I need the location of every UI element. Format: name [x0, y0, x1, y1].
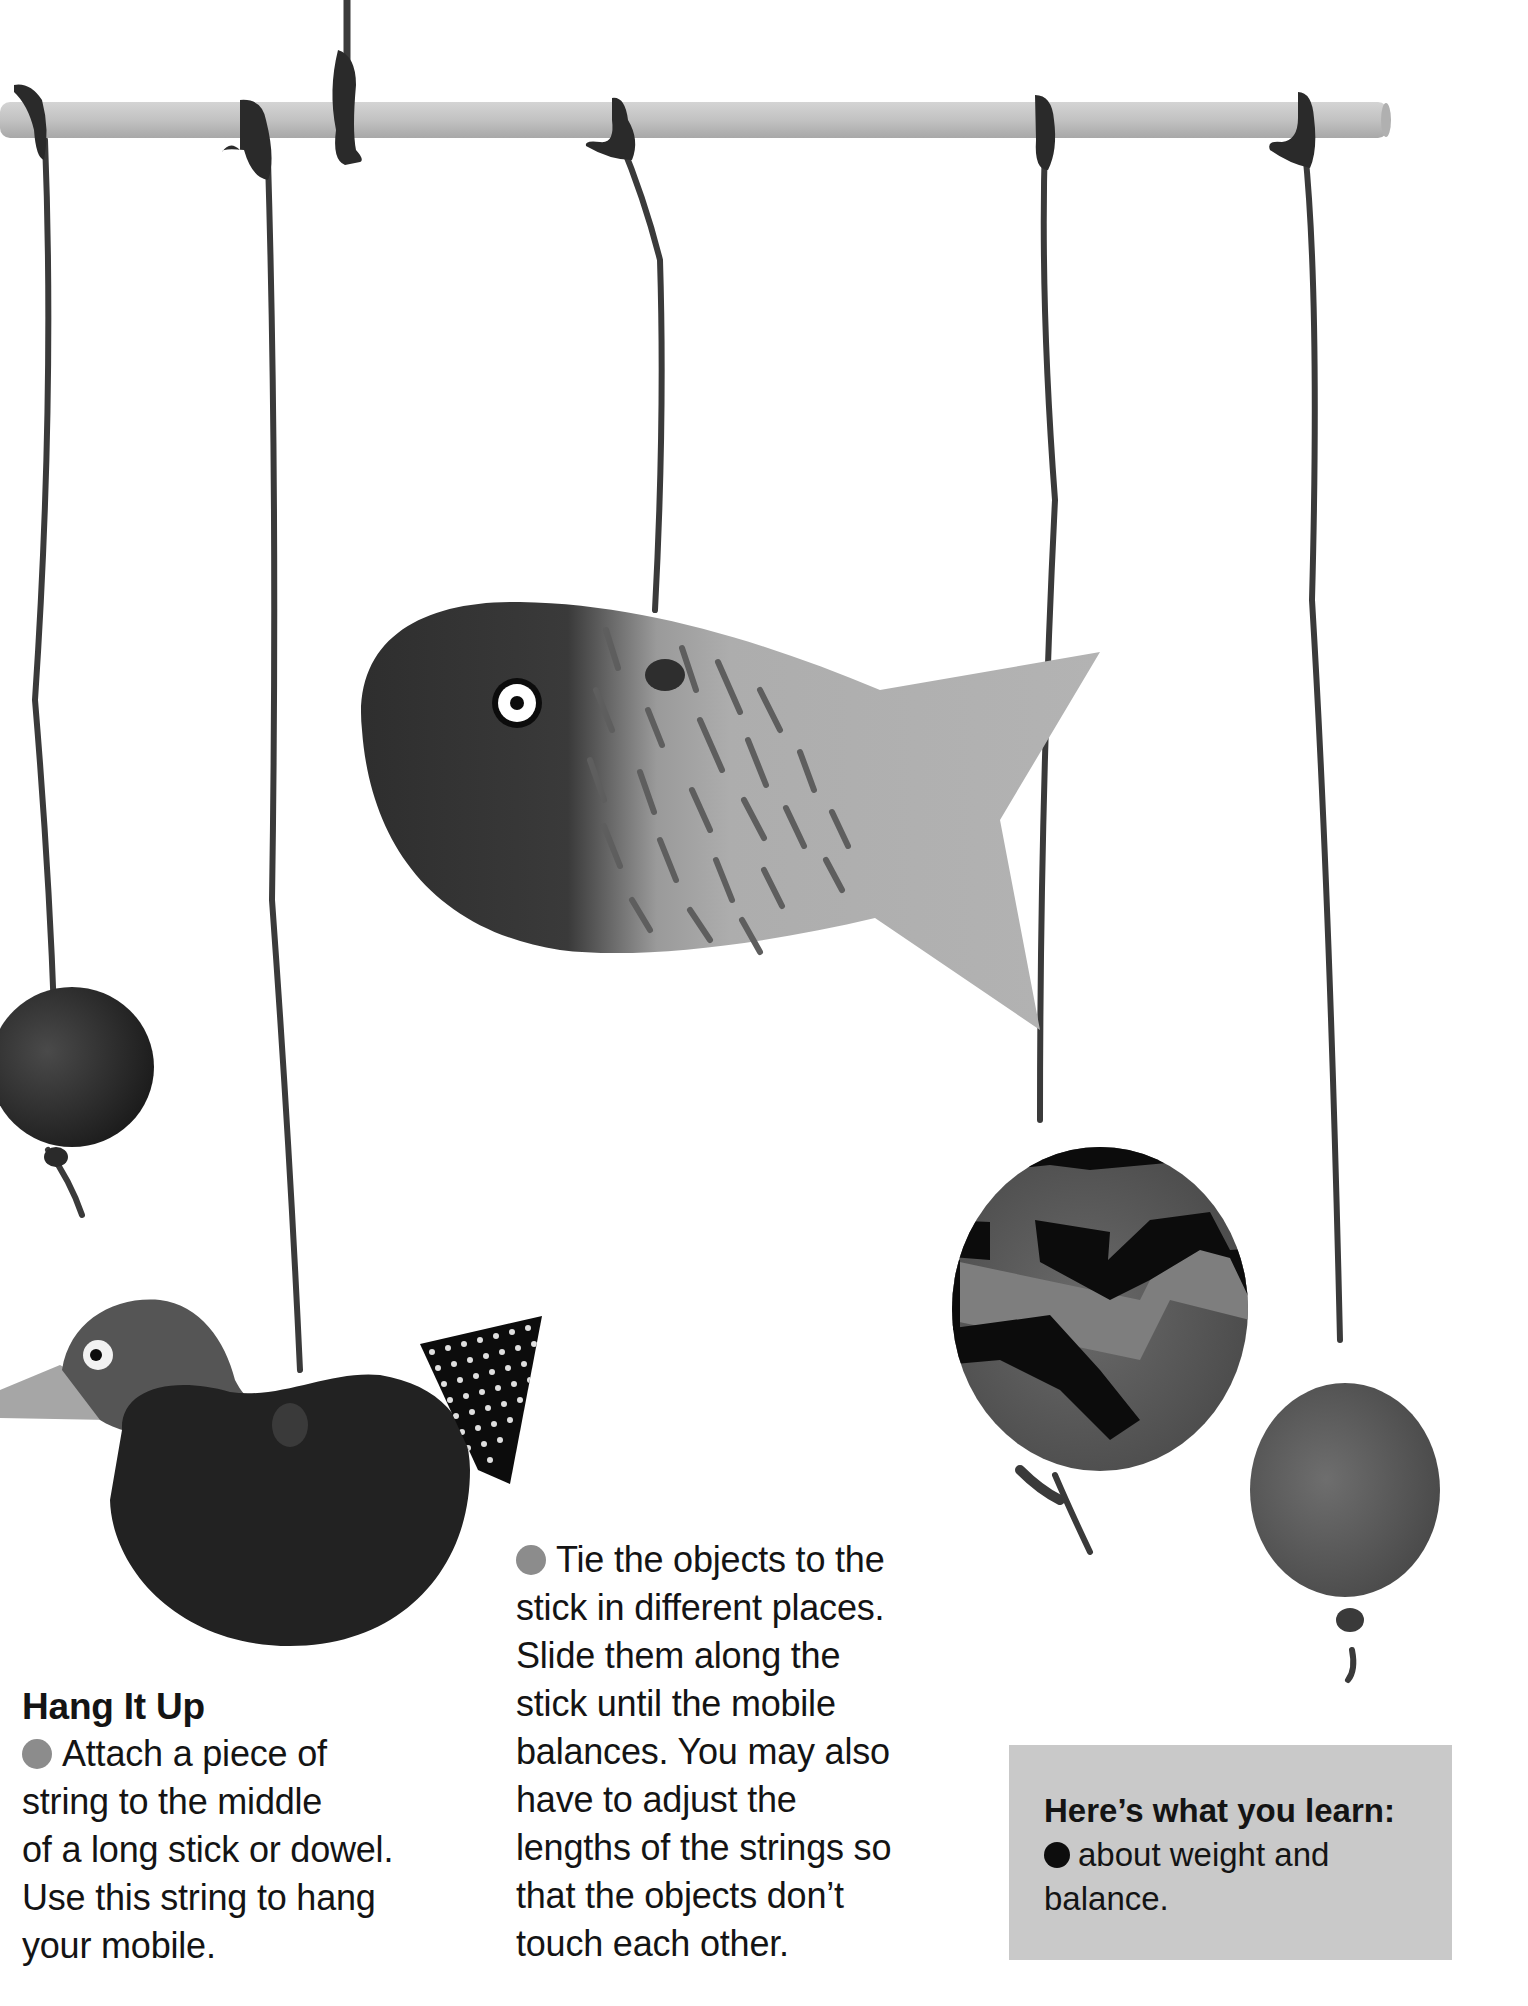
instruction-line: touch each other. [516, 1920, 891, 1968]
instruction-line: of a long stick or dowel. [22, 1826, 393, 1874]
instruction-line: Use this string to hang [22, 1874, 393, 1922]
middle-instruction-column: Tie the objects to the stick in differen… [516, 1536, 891, 1968]
learning-heading: Here’s what you learn: [1044, 1789, 1395, 1833]
bullet-icon [1044, 1842, 1070, 1868]
bird [0, 1300, 542, 1646]
instruction-line: balances. You may also [516, 1728, 891, 1776]
instruction-line: string to the middle [22, 1778, 393, 1826]
instruction-line: your mobile. [22, 1922, 393, 1970]
bullet-icon [22, 1739, 52, 1769]
instruction-line: stick until the mobile [516, 1680, 891, 1728]
instruction-line: that the objects don’t [516, 1872, 891, 1920]
instruction-line: have to adjust the [516, 1776, 891, 1824]
left-instruction-column: Hang It Up Attach a piece of string to t… [22, 1684, 393, 1970]
instruction-line: Attach a piece of [22, 1730, 393, 1778]
bird-eye-icon [83, 1340, 113, 1370]
learning-summary-content: Here’s what you learn: about weight and … [1044, 1789, 1395, 1921]
learning-line: about weight and [1044, 1833, 1395, 1877]
instruction-line: Tie the objects to the [516, 1536, 891, 1584]
learning-line: balance. [1044, 1877, 1395, 1921]
plain-ball-right [1250, 1383, 1440, 1632]
learning-summary-box: Here’s what you learn: about weight and … [1009, 1745, 1452, 1960]
instruction-line: Slide them along the [516, 1632, 891, 1680]
instruction-line: stick in different places. [516, 1584, 891, 1632]
fish [361, 602, 1100, 1030]
instruction-line: lengths of the strings so [516, 1824, 891, 1872]
fish-eye-icon [492, 678, 542, 728]
dowel-stick [0, 102, 1391, 138]
dark-ball-left [0, 987, 154, 1167]
bullet-icon [516, 1545, 546, 1575]
section-heading: Hang It Up [22, 1684, 393, 1730]
zigzag-ball [940, 1130, 1290, 1500]
